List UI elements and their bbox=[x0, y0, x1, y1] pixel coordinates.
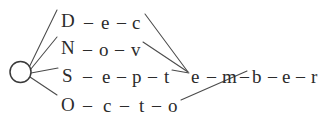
word-dec-letter-d-0: D bbox=[61, 11, 75, 30]
edge-dec-to-ember bbox=[145, 14, 188, 72]
word-octo-separator-5: – bbox=[152, 96, 161, 114]
word-sept-separator-1: – bbox=[83, 67, 92, 85]
word-dec-letter-c-4: c bbox=[132, 13, 140, 32]
word-octo-letter-c-2: c bbox=[103, 96, 111, 115]
suffix-ember-separator-7: – bbox=[296, 67, 305, 85]
word-nov-letter-n-0: N bbox=[61, 38, 75, 57]
word-nov-letter-v-4: v bbox=[131, 40, 141, 59]
word-sept-separator-3: – bbox=[117, 67, 126, 85]
suffix-ember-separator-5: – bbox=[268, 67, 277, 85]
word-nov-separator-3: – bbox=[115, 40, 124, 58]
word-sept-letter-s-0: S bbox=[62, 66, 73, 85]
edge-group-merge-to-ember bbox=[143, 14, 247, 100]
word-sept-letter-p-4: p bbox=[132, 67, 142, 86]
suffix-ember-separator-3: – bbox=[240, 67, 249, 85]
suffix-ember-letter-e-6: e bbox=[282, 67, 290, 86]
lattice-edges-layer bbox=[0, 0, 327, 127]
word-dec-letter-e-2: e bbox=[101, 13, 109, 32]
word-nov-separator-1: – bbox=[83, 40, 92, 58]
suffix-ember-letter-b-4: b bbox=[252, 67, 262, 86]
word-nov-letter-o-2: o bbox=[99, 40, 109, 59]
edge-start-to-nov bbox=[31, 37, 58, 70]
edge-start-to-dec bbox=[30, 10, 58, 67]
word-sept-letter-e-2: e bbox=[102, 67, 110, 86]
word-octo-letter-o-6: o bbox=[168, 96, 178, 115]
word-octo-separator-1: – bbox=[83, 96, 92, 114]
word-octo-separator-3: – bbox=[120, 96, 129, 114]
suffix-ember-separator-1: – bbox=[207, 67, 216, 85]
edge-group-start-branches bbox=[30, 10, 59, 95]
start-node-circle bbox=[10, 62, 31, 83]
suffix-ember-letter-e-0: e bbox=[191, 67, 199, 86]
word-octo-letter-t-4: t bbox=[139, 96, 144, 115]
word-lattice-diagram: D–e–cN–o–vS–e–p–tO–c–t–oe–m–b–e–r bbox=[0, 0, 327, 127]
edge-start-to-octo bbox=[30, 77, 57, 95]
suffix-ember-letter-m-2: m bbox=[222, 67, 237, 86]
word-sept-separator-5: – bbox=[148, 67, 157, 85]
word-dec-separator-3: – bbox=[117, 13, 126, 31]
word-octo-letter-o-0: O bbox=[61, 95, 75, 114]
suffix-ember-letter-r-8: r bbox=[311, 67, 317, 86]
word-dec-separator-1: – bbox=[84, 13, 93, 31]
word-sept-letter-t-6: t bbox=[164, 67, 169, 86]
edge-start-to-sept bbox=[31, 68, 58, 73]
